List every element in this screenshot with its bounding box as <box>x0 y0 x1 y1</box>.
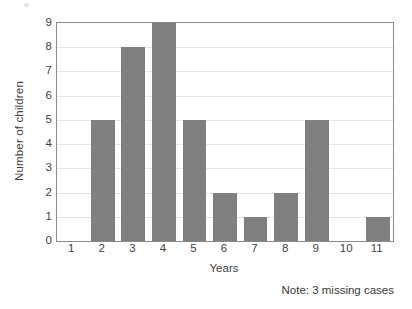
bar <box>183 120 207 241</box>
bar <box>213 193 237 241</box>
y-axis-tick-label: 4 <box>46 138 52 150</box>
bar-chart-figure: Number of children 0123456789 1234567891… <box>0 0 412 309</box>
x-axis-title: Years <box>56 262 392 274</box>
bar <box>305 120 329 241</box>
bar-slot <box>57 23 88 241</box>
y-axis-tick-label: 3 <box>46 163 52 175</box>
chart-note: Note: 3 missing cases <box>282 284 395 296</box>
y-axis-tick-label: 6 <box>46 90 52 102</box>
bar-slot <box>149 23 180 241</box>
bar-slot <box>271 23 302 241</box>
x-axis-tick-label: 10 <box>340 243 353 255</box>
bar-slot <box>179 23 210 241</box>
bar <box>152 23 176 241</box>
x-axis-tick-label: 9 <box>312 243 318 255</box>
x-axis-tick-label: 5 <box>190 243 196 255</box>
bar-slot <box>210 23 241 241</box>
y-axis-tick-label: 8 <box>46 41 52 53</box>
bar-slot <box>240 23 271 241</box>
bar <box>91 120 115 241</box>
scan-artifact-speck <box>24 3 29 7</box>
x-axis-tick-label: 4 <box>160 243 166 255</box>
bar-slot <box>362 23 393 241</box>
bars-group <box>57 23 393 241</box>
x-axis-tick-label: 1 <box>68 243 74 255</box>
bar <box>121 47 145 241</box>
bar <box>274 193 298 241</box>
x-axis-tick-label: 6 <box>221 243 227 255</box>
x-axis-tick-label: 8 <box>282 243 288 255</box>
y-axis-tick-label: 2 <box>46 187 52 199</box>
bar-slot <box>332 23 363 241</box>
x-axis-tick-labels: 1234567891011 <box>56 243 392 261</box>
x-axis-tick-label: 3 <box>129 243 135 255</box>
bar-slot <box>88 23 119 241</box>
plot-area: 0123456789 <box>56 22 394 242</box>
x-axis-tick-label: 7 <box>251 243 257 255</box>
y-axis-tick-label: 7 <box>46 66 52 78</box>
x-axis-tick-label: 2 <box>99 243 105 255</box>
y-axis-title-label: Number of children <box>13 81 25 181</box>
y-axis-tick-label: 5 <box>46 114 52 126</box>
x-axis-tick-label: 11 <box>371 243 383 255</box>
y-axis-tick-label: 0 <box>46 235 52 247</box>
bar-slot <box>118 23 149 241</box>
y-axis-tick-label: 1 <box>46 211 52 223</box>
y-axis-title: Number of children <box>10 22 28 240</box>
bar <box>244 217 268 241</box>
bar <box>366 217 390 241</box>
bar-slot <box>301 23 332 241</box>
y-axis-tick-label: 9 <box>46 17 52 29</box>
